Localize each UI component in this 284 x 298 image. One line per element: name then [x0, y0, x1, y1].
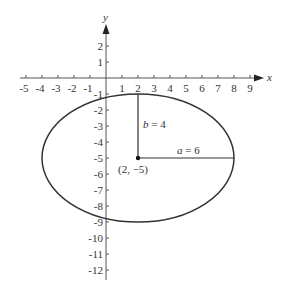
x-tick-labels: -5 -4 -3 -2 -1 1 2 3 4 5 6 7 8 9	[19, 82, 253, 94]
svg-text:-4: -4	[94, 136, 104, 148]
svg-text:-2: -2	[67, 82, 76, 94]
svg-text:-1: -1	[83, 82, 92, 94]
svg-text:-3: -3	[51, 82, 61, 94]
svg-text:7: 7	[215, 82, 221, 94]
svg-text:2: 2	[135, 82, 141, 94]
svg-text:-3: -3	[94, 120, 104, 132]
b-label: b = 4	[143, 118, 166, 130]
svg-text:6: 6	[199, 82, 205, 94]
y-axis-label: y	[102, 11, 108, 23]
svg-text:-4: -4	[35, 82, 45, 94]
svg-text:-10: -10	[88, 232, 103, 244]
svg-text:5: 5	[183, 82, 189, 94]
svg-text:1: 1	[98, 56, 104, 68]
svg-text:-5: -5	[94, 152, 104, 164]
svg-text:-6: -6	[94, 168, 104, 180]
svg-text:-7: -7	[94, 184, 104, 196]
svg-text:2: 2	[98, 40, 104, 52]
svg-text:1: 1	[119, 82, 125, 94]
svg-text:-11: -11	[89, 248, 103, 260]
svg-text:-5: -5	[19, 82, 29, 94]
svg-text:-8: -8	[94, 200, 104, 212]
center-label: (2, −5)	[118, 163, 148, 176]
svg-text:3: 3	[151, 82, 157, 94]
svg-text:8: 8	[231, 82, 237, 94]
x-axis-label: x	[266, 71, 272, 83]
x-axis-arrow-icon	[254, 75, 264, 82]
svg-text:4: 4	[167, 82, 173, 94]
ellipse-diagram: x y -5 -4 -3 -2 -1 1 2 3 4 5 6 7 8 9	[0, 0, 284, 298]
svg-text:9: 9	[247, 82, 253, 94]
a-label: a = 6	[177, 144, 200, 156]
svg-text:-2: -2	[94, 104, 103, 116]
svg-text:-12: -12	[88, 264, 103, 276]
y-tick-labels: 2 1 -1 -2 -3 -4 -5 -6 -7 -8 -9 -10 -11 -…	[88, 40, 103, 276]
center-point	[136, 156, 140, 160]
y-axis-arrow-icon	[103, 24, 110, 34]
